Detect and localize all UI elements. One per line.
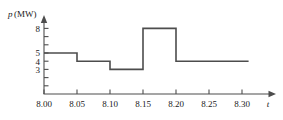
- y-axis-tick-label: 8: [36, 24, 41, 34]
- x-axis-tick-label: 8.20: [168, 99, 184, 109]
- power-step-chart: 3458p(MW)8.008.058.108.158.208.258.30t: [0, 0, 283, 120]
- x-axis-arrow-icon: [269, 91, 277, 97]
- x-axis-tick-label: 8.15: [135, 99, 151, 109]
- y-axis-caption: p(MW): [7, 9, 37, 19]
- y-axis-arrow-icon: [41, 15, 47, 23]
- x-axis-tick-label: 8.05: [69, 99, 85, 109]
- step-series-line: [44, 28, 249, 69]
- x-axis-tick-label: 8.25: [201, 99, 217, 109]
- x-axis-tick-label: 8.00: [36, 99, 52, 109]
- x-axis-caption: t: [267, 99, 270, 109]
- y-axis-caption-symbol: p: [7, 9, 13, 19]
- y-axis-tick-label: 5: [36, 48, 41, 58]
- x-axis-tick-label: 8.30: [234, 99, 250, 109]
- x-axis-tick-label: 8.10: [102, 99, 118, 109]
- chart-canvas: 3458p(MW)8.008.058.108.158.208.258.30t: [0, 0, 283, 120]
- y-axis-caption-unit: (MW): [14, 9, 37, 19]
